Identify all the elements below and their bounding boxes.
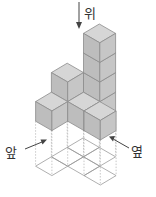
front-arrow-shaft: [25, 142, 42, 149]
front-view-arrow: [25, 140, 47, 150]
top-arrow-head-icon: [76, 22, 82, 29]
side-view-arrow: [109, 136, 129, 148]
floor-grid: [36, 138, 117, 185]
cube-stack: [36, 24, 117, 140]
cube-stack-diagram: 위 앞 옆: [0, 0, 156, 197]
top-view-label: 위: [84, 6, 96, 21]
top-view-arrow: [76, 2, 82, 29]
side-view-label: 옆: [131, 144, 143, 159]
side-arrow-head-icon: [109, 136, 115, 142]
front-view-label: 앞: [5, 145, 17, 160]
